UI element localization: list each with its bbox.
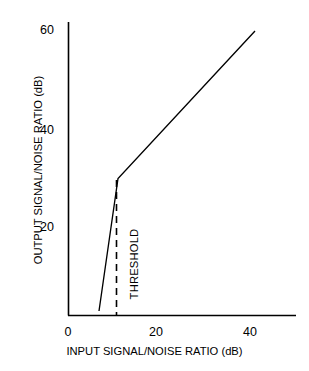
x-axis-title: INPUT SIGNAL/NOISE RATIO (dB)	[0, 345, 309, 357]
x-tick-label-40: 40	[230, 325, 270, 339]
signal-noise-curve	[99, 31, 255, 311]
x-tick-label-20: 20	[136, 325, 176, 339]
plot-canvas	[0, 0, 309, 371]
x-tick-label-0: 0	[48, 325, 88, 339]
chart-figure: 60 40 20 0 20 40 INPUT SIGNAL/NOISE RATI…	[0, 0, 309, 371]
threshold-annotation-label: THRESHOLD	[128, 219, 140, 309]
y-axis-title: OUTPUT SIGNAL/NOISE RATIO (dB)	[32, 25, 44, 315]
